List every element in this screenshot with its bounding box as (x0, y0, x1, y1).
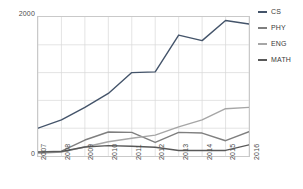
x-axis-tick-label: 2015 (229, 144, 236, 160)
legend-item-label: CS (271, 8, 281, 15)
chart-legend: CSPHYENGMATH (258, 8, 291, 63)
x-axis-tick-label: 2013 (182, 144, 189, 160)
x-axis-tick-label: 2014 (206, 144, 213, 160)
plot-area (37, 16, 250, 157)
legend-swatch-icon (258, 43, 267, 45)
chart-screenshot: 2000 0 200720082009201020112012201320142… (0, 0, 303, 189)
legend-item-phy[interactable]: PHY (258, 24, 291, 31)
x-axis-tick-label: 2010 (111, 144, 118, 160)
legend-item-math[interactable]: MATH (258, 56, 291, 63)
y-axis-bottom-tick-label: 0 (2, 150, 35, 157)
legend-swatch-icon (258, 27, 267, 29)
x-axis-tick-label: 2008 (64, 144, 71, 160)
legend-swatch-icon (258, 11, 267, 13)
legend-item-label: PHY (271, 24, 286, 31)
x-axis-tick-label: 2012 (158, 144, 165, 160)
legend-item-cs[interactable]: CS (258, 8, 291, 15)
chart-canvas (38, 17, 249, 156)
legend-item-label: ENG (271, 40, 287, 47)
x-axis-tick-label: 2009 (87, 144, 94, 160)
x-axis-tick-label: 2011 (135, 144, 142, 160)
x-axis-tick-label: 2016 (253, 144, 260, 160)
legend-item-label: MATH (271, 56, 291, 63)
legend-item-eng[interactable]: ENG (258, 40, 291, 47)
x-axis-tick-label: 2007 (40, 144, 47, 160)
y-axis-top-tick-label: 2000 (2, 10, 35, 17)
legend-swatch-icon (258, 59, 267, 61)
